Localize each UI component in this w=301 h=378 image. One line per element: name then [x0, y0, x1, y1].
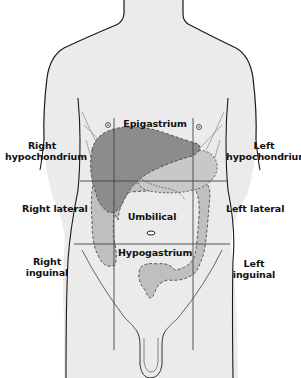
- label-hypogastrium: Hypogastrium: [118, 247, 190, 258]
- left-nipple-center: [198, 126, 200, 128]
- label-line: Left: [232, 258, 276, 269]
- label-line: Left: [226, 140, 301, 151]
- label-right-hypochondrium: Right hypochondrium: [5, 140, 79, 162]
- label-umbilical: Umbilical: [122, 211, 182, 222]
- label-left-inguinal: Left inguinal: [232, 258, 276, 280]
- label-epigastrium: Epigastrium: [122, 118, 188, 129]
- right-nipple-center: [107, 124, 109, 126]
- abdominal-regions-diagram: Right hypochondrium Epigastrium Left hyp…: [0, 0, 301, 378]
- label-line: Right: [5, 140, 79, 151]
- label-right-inguinal: Right inguinal: [25, 256, 69, 278]
- label-line: Right: [25, 256, 69, 267]
- navel: [147, 231, 155, 235]
- label-line: hypochondrium: [226, 151, 301, 162]
- label-line: inguinal: [25, 267, 69, 278]
- label-line: hypochondrium: [5, 151, 79, 162]
- label-right-lateral: Right lateral: [22, 203, 82, 214]
- torso-illustration: [0, 0, 301, 378]
- label-left-hypochondrium: Left hypochondrium: [226, 140, 301, 162]
- label-line: inguinal: [232, 269, 276, 280]
- label-left-lateral: Left lateral: [226, 203, 284, 214]
